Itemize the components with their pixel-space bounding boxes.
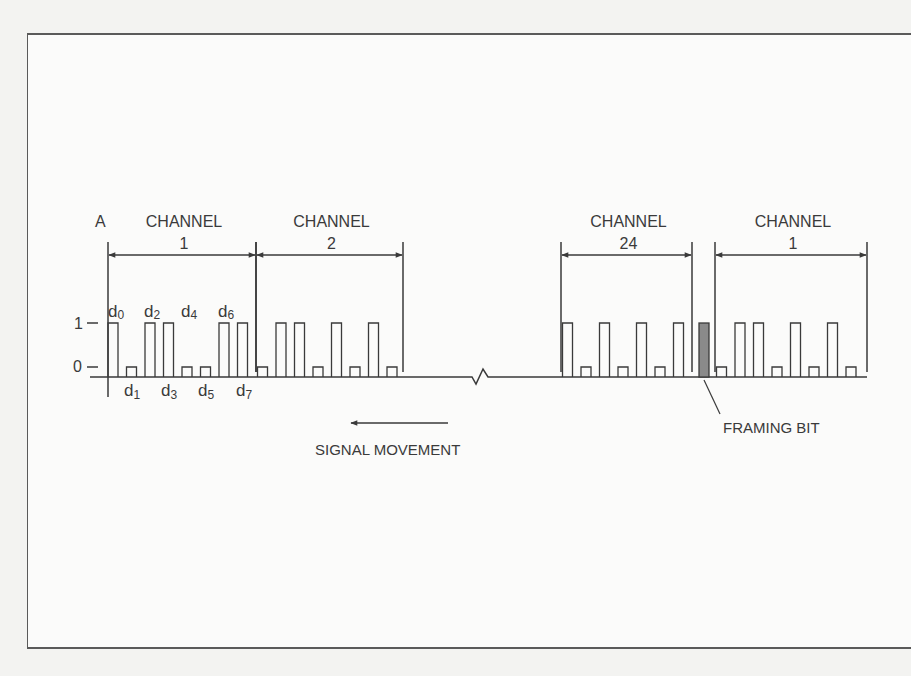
framing-bit-leader-line <box>704 380 720 414</box>
framing-bit-pulse <box>699 323 709 377</box>
channel-title: CHANNEL <box>293 213 370 230</box>
pulse-bit-0 <box>258 367 268 377</box>
tdm-frame-diagram: 1 0 A CHANNEL1CHANNEL2CHANNEL24CHANNEL1 … <box>0 0 911 676</box>
bit-label-d0: d0 <box>108 302 124 322</box>
framing-bit-label: FRAMING BIT <box>723 419 820 436</box>
pulse-bit-1 <box>332 323 342 377</box>
pulse-bit-0 <box>809 367 819 377</box>
channel-group-ch2: CHANNEL2 <box>256 213 403 377</box>
pulse-bit-0 <box>182 367 192 377</box>
pulse-bit-1 <box>145 323 155 377</box>
pulse-bit-1 <box>735 323 745 377</box>
bit-label-d2: d2 <box>144 302 160 322</box>
pulse-bit-1 <box>791 323 801 377</box>
pulse-bit-1 <box>674 323 684 377</box>
channel-group-ch1-next: CHANNEL1 <box>715 213 867 377</box>
pulse-bit-1 <box>637 323 647 377</box>
pulse-bit-0 <box>772 367 782 377</box>
pulse-bit-0 <box>387 367 397 377</box>
bit-label-d3: d3 <box>161 381 177 402</box>
pulse-bit-0 <box>846 367 856 377</box>
bit-label-d1: d1 <box>124 381 140 402</box>
channel-number: 2 <box>327 235 336 252</box>
bit-label-d5: d5 <box>198 381 214 402</box>
pulse-bit-1 <box>563 323 573 377</box>
pulse-bit-1 <box>295 323 305 377</box>
channel-title: CHANNEL <box>146 213 223 230</box>
pulse-bit-0 <box>717 367 727 377</box>
pulse-bit-1 <box>828 323 838 377</box>
bit-label-d4: d4 <box>181 302 197 322</box>
channel-title: CHANNEL <box>590 213 667 230</box>
channel-number: 1 <box>789 235 798 252</box>
pulse-bit-1 <box>219 323 229 377</box>
pulse-bit-0 <box>350 367 360 377</box>
pulse-bit-0 <box>618 367 628 377</box>
pulse-bit-0 <box>201 367 211 377</box>
pulse-bit-1 <box>164 323 174 377</box>
point-a-label: A <box>95 213 106 230</box>
channel-number: 1 <box>180 235 189 252</box>
figure-stage: 1 0 A CHANNEL1CHANNEL2CHANNEL24CHANNEL1 … <box>0 0 911 676</box>
level-high-label: 1 <box>74 315 83 332</box>
signal-movement-label: SIGNAL MOVEMENT <box>315 441 460 458</box>
pulse-bit-1 <box>108 323 118 377</box>
bit-labels: d0d2d4d6d1d3d5d7 <box>108 302 252 402</box>
pulse-bit-0 <box>581 367 591 377</box>
pulse-bit-1 <box>276 323 286 377</box>
pulse-bit-1 <box>369 323 379 377</box>
channel-title: CHANNEL <box>755 213 832 230</box>
pulse-bit-0 <box>127 367 137 377</box>
bit-label-d6: d6 <box>218 302 234 322</box>
bit-label-d7: d7 <box>236 381 252 402</box>
pulse-bit-0 <box>655 367 665 377</box>
pulse-bit-1 <box>238 323 248 377</box>
channel-group-ch24: CHANNEL24 <box>561 213 692 377</box>
channel-number: 24 <box>620 235 638 252</box>
pulse-bit-0 <box>313 367 323 377</box>
pulse-bit-1 <box>600 323 610 377</box>
level-low-label: 0 <box>73 358 82 375</box>
pulse-bit-1 <box>754 323 764 377</box>
